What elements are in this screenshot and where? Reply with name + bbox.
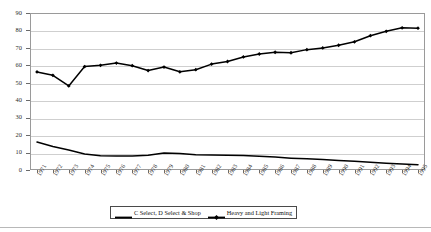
y-tick-label: 10 — [0, 149, 22, 155]
legend-entry: Heavy and Light Framing — [208, 208, 292, 217]
legend-entry: C Select, D Select & Shop — [115, 208, 201, 217]
data-point-marker — [400, 26, 404, 30]
data-point-marker — [273, 50, 277, 54]
data-point-marker — [194, 68, 198, 72]
y-tick-label: 90 — [0, 10, 22, 16]
x-tick-mark — [196, 170, 197, 173]
data-point-marker — [178, 70, 182, 74]
x-tick-mark — [275, 170, 276, 173]
y-tick-label: 30 — [0, 114, 22, 120]
x-tick-mark — [132, 170, 133, 173]
legend-line-diamond-icon — [208, 208, 225, 217]
x-tick-mark — [291, 170, 292, 173]
x-tick-mark — [85, 170, 86, 173]
x-tick-mark — [148, 170, 149, 173]
series-line-1 — [37, 142, 418, 165]
data-point-marker — [162, 65, 166, 69]
x-tick-mark — [402, 170, 403, 173]
data-point-marker — [241, 55, 245, 59]
legend-label: Heavy and Light Framing — [227, 209, 292, 216]
data-point-marker — [130, 64, 134, 68]
y-tick-label: 80 — [0, 27, 22, 33]
data-point-marker — [384, 29, 388, 33]
data-point-marker — [226, 60, 230, 64]
x-tick-mark — [323, 170, 324, 173]
x-tick-mark — [370, 170, 371, 173]
data-point-marker — [289, 51, 293, 55]
line-chart: Percentage of Total Production 010203040… — [0, 0, 431, 232]
x-tick-mark — [116, 170, 117, 173]
data-point-marker — [114, 61, 118, 65]
x-tick-mark — [339, 170, 340, 173]
x-tick-mark — [307, 170, 308, 173]
x-tick-mark — [212, 170, 213, 173]
x-tick-mark — [355, 170, 356, 173]
x-tick-mark — [243, 170, 244, 173]
x-tick-mark — [101, 170, 102, 173]
x-tick-mark — [180, 170, 181, 173]
x-tick-mark — [69, 170, 70, 173]
x-tick-mark — [53, 170, 54, 173]
x-tick-mark — [164, 170, 165, 173]
data-point-marker — [368, 34, 372, 38]
y-tick-label: 20 — [0, 132, 22, 138]
data-point-marker — [416, 26, 420, 30]
y-tick-label: 60 — [0, 62, 22, 68]
y-tick-label: 40 — [0, 97, 22, 103]
data-point-marker — [146, 69, 150, 73]
x-tick-mark — [37, 170, 38, 173]
data-point-marker — [305, 48, 309, 52]
data-point-marker — [353, 40, 357, 44]
y-tick-label: 50 — [0, 80, 22, 86]
y-tick-mark — [26, 170, 30, 171]
data-point-marker — [321, 46, 325, 50]
series-line-2 — [37, 28, 418, 86]
chart-legend: C Select, D Select & ShopHeavy and Light… — [110, 206, 297, 219]
x-tick-mark — [228, 170, 229, 173]
y-tick-label: 0 — [0, 167, 22, 173]
x-tick-mark — [418, 170, 419, 173]
bottom-divider — [0, 227, 431, 228]
series-plot — [30, 13, 425, 170]
data-point-marker — [257, 52, 261, 56]
legend-label: C Select, D Select & Shop — [134, 209, 201, 216]
data-point-marker — [337, 43, 341, 47]
y-tick-label: 70 — [0, 45, 22, 51]
data-point-marker — [35, 70, 39, 74]
data-point-marker — [99, 63, 103, 67]
data-point-marker — [210, 62, 214, 66]
x-tick-mark — [259, 170, 260, 173]
legend-line-icon — [115, 208, 132, 217]
x-tick-mark — [386, 170, 387, 173]
